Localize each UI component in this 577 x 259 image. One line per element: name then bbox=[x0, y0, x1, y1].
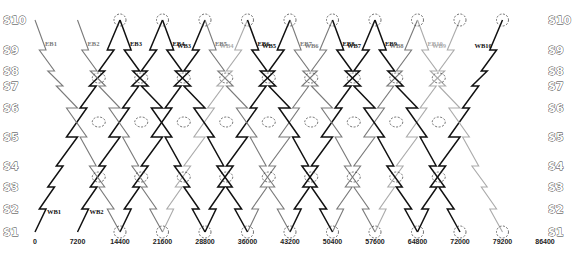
time-tick-label: 36000 bbox=[238, 238, 258, 245]
meet-marker bbox=[262, 117, 275, 127]
station-label-left: S5 bbox=[3, 131, 19, 144]
time-tick-label: 28800 bbox=[195, 238, 215, 245]
station-label-left: S2 bbox=[3, 203, 19, 216]
train-label: WB10 bbox=[475, 42, 492, 49]
station-label-right: S5 bbox=[548, 131, 564, 144]
time-tick-label: 57600 bbox=[365, 238, 385, 245]
train-label: WB1 bbox=[47, 208, 61, 215]
train-path-wb5 bbox=[205, 20, 290, 232]
train-paths bbox=[35, 20, 503, 232]
train-path-wb7 bbox=[290, 20, 375, 232]
right-station-axis: S1S2S3S4S5S6S7S8S9S10 bbox=[548, 14, 572, 239]
time-tick-label: 43200 bbox=[280, 238, 300, 245]
train-path-eb1 bbox=[35, 20, 120, 232]
station-label-left: S8 bbox=[3, 65, 19, 78]
station-label-left: S9 bbox=[3, 44, 19, 57]
meet-marker bbox=[220, 117, 233, 127]
train-label: WB2 bbox=[90, 208, 104, 215]
station-label-left: S7 bbox=[3, 80, 19, 93]
station-label-right: S9 bbox=[548, 44, 564, 57]
train-path-eb4 bbox=[163, 20, 248, 232]
train-label: EB10 bbox=[428, 40, 443, 47]
train-label: EB8 bbox=[343, 40, 356, 47]
train-labels: WB1WB2WB3WB4WB5WB6WB7WB8WB9WB10EB1EB2EB3… bbox=[45, 40, 492, 215]
train-label: EB7 bbox=[300, 40, 313, 47]
train-path-eb9 bbox=[375, 20, 460, 232]
train-label: EB5 bbox=[215, 40, 228, 47]
station-label-right: S4 bbox=[548, 160, 564, 173]
station-label-right: S7 bbox=[548, 80, 564, 93]
left-station-axis: S1S2S3S4S5S6S7S8S9S10 bbox=[3, 14, 27, 239]
station-label-left: S1 bbox=[3, 226, 19, 239]
station-label-left: S10 bbox=[3, 14, 27, 27]
train-path-wb1 bbox=[35, 20, 120, 232]
meet-marker bbox=[177, 117, 190, 127]
train-path-eb2 bbox=[78, 20, 163, 232]
time-tick-label: 86400 bbox=[535, 238, 555, 245]
station-label-right: S2 bbox=[548, 203, 564, 216]
station-label-right: S3 bbox=[548, 181, 564, 194]
station-label-right: S10 bbox=[548, 14, 572, 27]
train-label: EB4 bbox=[173, 40, 186, 47]
station-label-left: S3 bbox=[3, 181, 19, 194]
time-tick-label: 7200 bbox=[70, 238, 86, 245]
train-path-wb10 bbox=[418, 20, 503, 232]
train-path-eb7 bbox=[290, 20, 375, 232]
train-label: EB1 bbox=[45, 40, 57, 47]
station-label-right: S8 bbox=[548, 65, 564, 78]
train-path-wb2 bbox=[78, 20, 163, 232]
meet-marker bbox=[305, 117, 318, 127]
time-axis: 0720014400216002880036000432005040057600… bbox=[33, 238, 555, 245]
station-label-left: S4 bbox=[3, 160, 19, 173]
meet-marker bbox=[177, 172, 190, 182]
meet-marker bbox=[92, 117, 105, 127]
time-tick-label: 14400 bbox=[110, 238, 130, 245]
train-label: EB3 bbox=[130, 40, 143, 47]
meet-marker bbox=[135, 117, 148, 127]
station-label-left: S6 bbox=[3, 102, 19, 115]
meet-marker bbox=[390, 117, 403, 127]
train-path-eb6 bbox=[248, 20, 333, 232]
train-timetable-chart: S1S2S3S4S5S6S7S8S9S10 S1S2S3S4S5S6S7S8S9… bbox=[0, 0, 577, 259]
time-tick-label: 64800 bbox=[408, 238, 428, 245]
time-tick-label: 79200 bbox=[493, 238, 513, 245]
meet-marker bbox=[347, 117, 360, 127]
meet-marker bbox=[347, 172, 360, 182]
train-path-eb5 bbox=[205, 20, 290, 232]
train-path-eb10 bbox=[418, 20, 503, 232]
time-tick-label: 50400 bbox=[323, 238, 343, 245]
time-tick-label: 0 bbox=[33, 238, 37, 245]
train-label: EB9 bbox=[385, 40, 398, 47]
station-label-right: S6 bbox=[548, 102, 564, 115]
train-path-eb8 bbox=[333, 20, 418, 232]
meet-marker bbox=[390, 172, 403, 182]
time-tick-label: 72000 bbox=[450, 238, 470, 245]
train-path-eb3 bbox=[120, 20, 205, 232]
time-tick-label: 21600 bbox=[153, 238, 173, 245]
train-label: EB2 bbox=[88, 40, 100, 47]
meet-marker bbox=[432, 117, 445, 127]
train-label: EB6 bbox=[258, 40, 271, 47]
meet-marker bbox=[262, 172, 275, 182]
